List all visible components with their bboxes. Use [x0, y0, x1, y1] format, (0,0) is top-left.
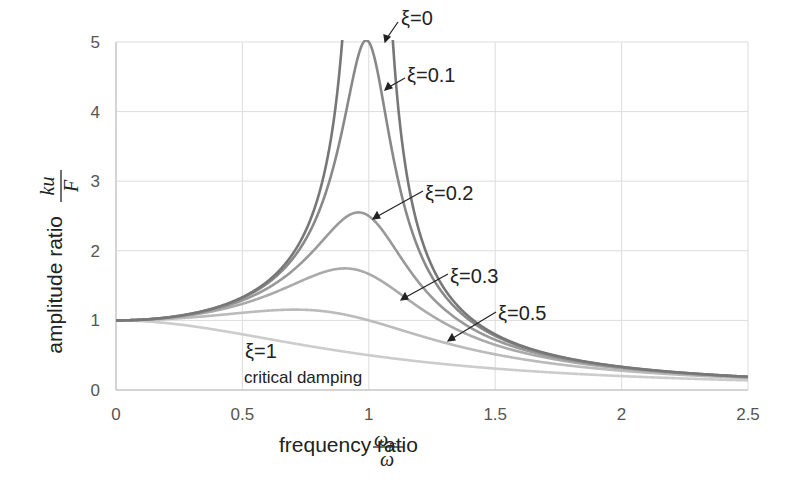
y-tick-label: 2 — [91, 242, 100, 261]
grid-lines — [116, 42, 748, 390]
y-tick-label: 5 — [91, 33, 100, 52]
label-xi-1: ξ=1 — [245, 340, 277, 362]
label-xi-0-5: ξ=0.5 — [498, 302, 546, 324]
y-tick-label: 1 — [91, 311, 100, 330]
label-xi-0: ξ=0 — [401, 7, 433, 29]
x-tick-label: 1 — [364, 405, 373, 424]
curve-ξ=0.1 — [116, 40, 748, 377]
curve-ξ=0.2 — [116, 212, 748, 377]
y-tick-label: 4 — [91, 103, 100, 122]
curve-ξ=0.5 — [116, 310, 748, 378]
x-tick-label: 1.5 — [483, 405, 507, 424]
label-xi-0-1: ξ=0.1 — [407, 64, 455, 86]
axis-ticks: 00.511.522.5012345 — [91, 33, 760, 424]
label-xi-0-3: ξ=0.3 — [450, 265, 498, 287]
label-xi-0-2: ξ=0.2 — [425, 182, 473, 204]
x-tick-label: 0.5 — [231, 405, 255, 424]
curve-ξ=0.3 — [116, 268, 748, 377]
x-tick-label: 0 — [111, 405, 120, 424]
y-axis-frac-den: F — [60, 179, 82, 193]
label-critical-damping: critical damping — [244, 368, 362, 387]
y-axis-label: amplitude ratio ku F — [36, 170, 82, 354]
y-axis-frac-num: ku — [36, 177, 58, 196]
x-tick-label: 2 — [617, 405, 626, 424]
x-tick-label: 2.5 — [736, 405, 760, 424]
y-tick-label: 0 — [91, 381, 100, 400]
x-axis-label-text: frequency ratio — [279, 433, 418, 456]
x-axis-label: frequency ratio ω F ω — [279, 428, 418, 470]
y-axis-label-text: amplitude ratio — [43, 216, 66, 354]
x-axis-frac-den: ω — [380, 448, 394, 470]
y-tick-label: 3 — [91, 172, 100, 191]
amplitude-ratio-chart: 00.511.522.5012345 ξ=0 ξ=0.1 ξ=0.2 ξ=0.3… — [0, 0, 794, 489]
